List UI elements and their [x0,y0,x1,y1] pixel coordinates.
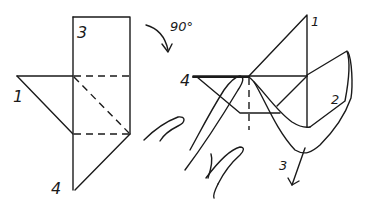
pull-arrow-shaft [292,148,305,185]
curl-inner [249,77,310,127]
hand-icon [144,76,243,198]
origami-diagram: 3 1 4 90° 1 4 2 3 [0,0,365,206]
rotation-label: 90° [170,19,193,34]
hidden-line-diagonal [74,77,129,133]
label-3: 3 [77,23,87,42]
thumb-base [208,154,212,178]
label-4-right: 4 [180,71,190,90]
label-4: 4 [51,179,61,198]
right-figure: 1 4 2 3 [180,14,352,185]
flap-diagonal [17,76,73,134]
inner-diagonal [277,76,307,106]
bottom-diagonal [75,134,130,190]
label-2: 2 [331,92,339,107]
wrist [214,184,218,198]
label-1: 1 [13,87,23,106]
hand-back [144,117,184,141]
left-figure: 3 1 4 [13,17,130,198]
label-1-right: 1 [311,14,319,29]
rotate-arrow-icon [146,25,172,52]
index-finger [185,76,243,170]
label-3-right: 3 [279,158,287,173]
